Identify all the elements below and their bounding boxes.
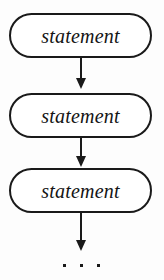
edge-stem (80, 212, 82, 241)
diagram-canvas: statement statement statement (0, 0, 164, 280)
statement-node-3[interactable]: statement (9, 168, 152, 213)
statement-node-1-label: statement (41, 26, 119, 46)
statement-node-2-label: statement (41, 106, 119, 126)
edge-stem (80, 57, 82, 79)
ellipsis-dot (63, 264, 66, 267)
edge-statement2-to-statement3 (80, 136, 82, 167)
arrowhead-down-icon (76, 156, 86, 167)
edge-statement1-to-statement2 (80, 57, 82, 89)
statement-node-2[interactable]: statement (9, 93, 152, 138)
ellipsis-dot (80, 264, 83, 267)
arrowhead-down-icon (76, 78, 86, 89)
statement-node-1[interactable]: statement (9, 13, 152, 58)
edge-statement3-to-ellipsis (80, 212, 82, 251)
edge-stem (80, 136, 82, 157)
statement-node-3-label: statement (41, 181, 119, 201)
ellipsis-dot (97, 264, 100, 267)
ellipsis-continuation (63, 263, 100, 267)
arrowhead-down-icon (76, 240, 86, 251)
